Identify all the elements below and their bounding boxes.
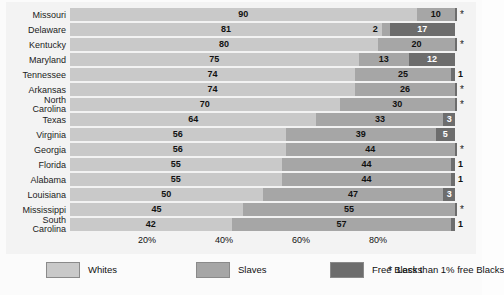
value-slaves: 39 bbox=[286, 128, 436, 141]
state-label: Kentucky bbox=[2, 40, 66, 50]
segment-free-blacks bbox=[455, 8, 457, 21]
table-row: Tennessee74251 bbox=[0, 68, 482, 81]
footnote-text: Less than 1% free Blacks bbox=[397, 262, 504, 278]
legend-swatch bbox=[196, 262, 230, 278]
state-label: Maryland bbox=[2, 55, 66, 65]
value-whites: 90 bbox=[70, 8, 417, 21]
segment-free-blacks bbox=[455, 98, 457, 111]
value-slaves: 10 bbox=[417, 8, 456, 21]
axis-tick-label: 80% bbox=[358, 234, 398, 246]
segment-free-blacks bbox=[451, 158, 455, 171]
table-row: Missouri9010* bbox=[0, 8, 482, 21]
state-label: Florida bbox=[2, 160, 66, 170]
value-slaves: 55 bbox=[243, 203, 455, 216]
less-than-one-percent-marker: * bbox=[460, 38, 464, 51]
x-axis: 20%40%60%80% bbox=[0, 234, 482, 246]
value-slaves: 44 bbox=[286, 143, 455, 156]
value-whites: 50 bbox=[70, 188, 263, 201]
value-whites: 45 bbox=[70, 203, 243, 216]
segment-free-blacks bbox=[455, 83, 457, 96]
table-row: Alabama55441 bbox=[0, 173, 482, 186]
axis-tick-label: 60% bbox=[281, 234, 321, 246]
value-free-blacks: 3 bbox=[443, 113, 455, 126]
value-slaves: 25 bbox=[355, 68, 451, 81]
value-whites: 70 bbox=[70, 98, 340, 111]
table-row: Arkansas7426* bbox=[0, 83, 482, 96]
footnote-asterisk-icon: * bbox=[388, 262, 392, 278]
value-free-blacks: 17 bbox=[390, 23, 455, 36]
state-label: Arkansas bbox=[2, 85, 66, 95]
value-slaves: 20 bbox=[378, 38, 455, 51]
legend-swatch bbox=[330, 262, 364, 278]
state-label: South Carolina bbox=[2, 216, 66, 233]
legend-label: Whites bbox=[88, 262, 117, 278]
state-label: Alabama bbox=[2, 175, 66, 185]
chart-legend: WhitesSlavesFree Blacks*Less than 1% fre… bbox=[0, 262, 482, 290]
value-slaves: 44 bbox=[282, 173, 451, 186]
value-whites: 74 bbox=[70, 83, 355, 96]
axis-tick-label: 20% bbox=[127, 234, 167, 246]
value-free-blacks: 1 bbox=[458, 68, 472, 81]
segment-slaves bbox=[382, 23, 390, 36]
value-slaves: 33 bbox=[316, 113, 443, 126]
axis-tick-label: 40% bbox=[204, 234, 244, 246]
table-row: Louisiana50473 bbox=[0, 188, 482, 201]
value-whites: 74 bbox=[70, 68, 355, 81]
table-row: Florida55441 bbox=[0, 158, 482, 171]
state-label: Virginia bbox=[2, 130, 66, 140]
value-slaves: 30 bbox=[340, 98, 456, 111]
value-whites: 80 bbox=[70, 38, 378, 51]
value-whites: 55 bbox=[70, 173, 282, 186]
value-slaves: 47 bbox=[263, 188, 444, 201]
table-row: Georgia5644* bbox=[0, 143, 482, 156]
value-whites: 56 bbox=[70, 128, 286, 141]
value-slaves: 2 bbox=[356, 23, 378, 36]
segment-free-blacks bbox=[455, 38, 457, 51]
state-label: Delaware bbox=[2, 25, 66, 35]
value-free-blacks: 3 bbox=[443, 188, 455, 201]
value-free-blacks: 5 bbox=[436, 128, 455, 141]
less-than-one-percent-marker: * bbox=[460, 98, 464, 111]
table-row: Delaware81217 bbox=[0, 23, 482, 36]
state-label: Texas bbox=[2, 115, 66, 125]
table-row: Texas64333 bbox=[0, 113, 482, 126]
table-row: Virginia56395 bbox=[0, 128, 482, 141]
state-label: Missouri bbox=[2, 10, 66, 20]
segment-free-blacks bbox=[455, 143, 457, 156]
legend-swatch bbox=[46, 262, 80, 278]
less-than-one-percent-marker: * bbox=[460, 83, 464, 96]
less-than-one-percent-marker: * bbox=[460, 203, 464, 216]
less-than-one-percent-marker: * bbox=[460, 8, 464, 21]
value-free-blacks: 1 bbox=[458, 173, 472, 186]
table-row: Kentucky8020* bbox=[0, 38, 482, 51]
value-slaves: 13 bbox=[359, 53, 409, 66]
segment-free-blacks bbox=[451, 218, 455, 231]
value-free-blacks: 12 bbox=[409, 53, 455, 66]
table-row: North Carolina7030* bbox=[0, 98, 482, 111]
value-whites: 42 bbox=[70, 218, 232, 231]
less-than-one-percent-marker: * bbox=[460, 143, 464, 156]
state-label: North Carolina bbox=[2, 96, 66, 113]
table-row: Maryland751312 bbox=[0, 53, 482, 66]
value-free-blacks: 1 bbox=[458, 218, 472, 231]
segment-free-blacks bbox=[451, 173, 455, 186]
value-whites: 64 bbox=[70, 113, 316, 126]
value-whites: 75 bbox=[70, 53, 359, 66]
value-slaves: 57 bbox=[232, 218, 451, 231]
state-label: Mississippi bbox=[2, 205, 66, 215]
table-row: Mississippi4555* bbox=[0, 203, 482, 216]
segment-free-blacks bbox=[451, 68, 455, 81]
value-whites: 81 bbox=[70, 23, 382, 36]
segment-free-blacks bbox=[455, 203, 457, 216]
legend-label: Slaves bbox=[238, 262, 267, 278]
state-label: Tennessee bbox=[2, 70, 66, 80]
value-free-blacks: 1 bbox=[458, 158, 472, 171]
value-slaves: 44 bbox=[282, 158, 451, 171]
value-slaves: 26 bbox=[355, 83, 455, 96]
value-whites: 56 bbox=[70, 143, 286, 156]
state-label: Louisiana bbox=[2, 190, 66, 200]
table-row: South Carolina42571 bbox=[0, 218, 482, 231]
state-label: Georgia bbox=[2, 145, 66, 155]
value-whites: 55 bbox=[70, 158, 282, 171]
